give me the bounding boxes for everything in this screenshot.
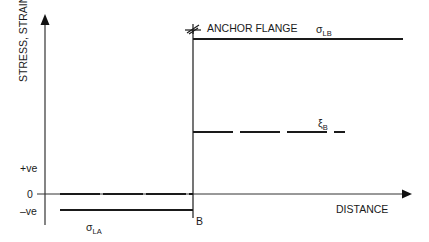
anchor-flange-label: ANCHOR FLANGE <box>207 23 297 34</box>
xi-b-label: ξB <box>318 118 328 132</box>
sigma-lb-subscript: LB <box>322 29 331 38</box>
xi-b-subscript: B <box>323 123 328 132</box>
y-axis-label: STRESS, STRAIN <box>17 0 29 82</box>
y-tick-zero: 0 <box>27 189 33 200</box>
y-tick-positive: +ve <box>20 163 37 174</box>
anchor-flange-icon <box>185 24 201 34</box>
sigma-lb-label: σLB <box>316 24 332 38</box>
x-axis-label: DISTANCE <box>336 204 388 215</box>
y-tick-negative: –ve <box>20 206 37 217</box>
point-b-label: B <box>196 216 203 227</box>
y-axis-arrow-icon <box>41 14 50 25</box>
sigma-la-label: σLA <box>86 222 102 236</box>
x-axis-arrow-icon <box>402 190 412 199</box>
sigma-la-subscript: LA <box>92 227 101 236</box>
